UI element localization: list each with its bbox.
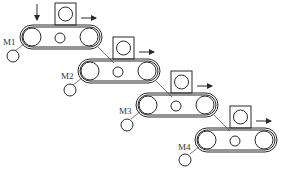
motor-label: M3	[119, 106, 132, 116]
conveyor-2	[64, 37, 172, 97]
motor-label: M2	[61, 71, 74, 81]
motor-icon	[7, 50, 19, 62]
motor-label: M1	[3, 37, 16, 47]
conveyor-diagram: M1 M2 M3	[0, 0, 284, 174]
conveyor-3	[121, 71, 230, 131]
motor-label: M4	[178, 142, 191, 152]
conveyor-1	[7, 3, 114, 63]
